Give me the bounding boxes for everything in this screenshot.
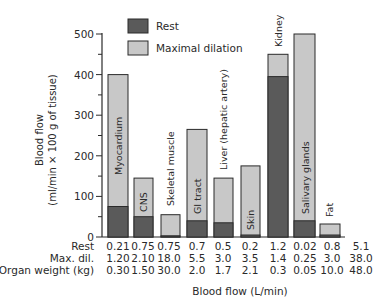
cell: 3.0 (317, 252, 347, 264)
cell: 3.5 (235, 252, 265, 264)
cell: 18.0 (154, 252, 184, 264)
label-fat: Fat (324, 203, 335, 217)
label-kidney: Kidney (273, 14, 284, 47)
cell: 48.0 (346, 264, 376, 276)
label-myocardium: Myocardium (113, 117, 124, 175)
cell: 0.3 (263, 264, 293, 276)
row-label-max-dil: Max. dil. (50, 252, 94, 264)
label-skeletal-muscle: Skeletal muscle (165, 131, 176, 206)
table-row-max-dil: Max. dil. 1.20 2.10 18.0 5.5 3.0 3.5 1.4… (0, 252, 391, 264)
bar-liver: Liver (hepatic artery) (214, 69, 233, 237)
label-liver: Liver (hepatic artery) (218, 69, 229, 170)
x-axis-title: Blood flow (L/min) (170, 285, 310, 297)
cell: 2.1 (235, 264, 265, 276)
legend-swatch-max (128, 41, 148, 55)
cell: 30.0 (154, 264, 184, 276)
cell: 0.25 (290, 252, 320, 264)
cell: 38.0 (346, 252, 376, 264)
y-tick-400: 400 (74, 69, 94, 81)
cell: 0.75 (154, 240, 184, 252)
bar-gi-tract: GI tract (187, 129, 207, 237)
label-cns: CNS (138, 192, 149, 212)
y-tick-500: 500 (74, 28, 94, 40)
y-tick-300: 300 (74, 109, 94, 121)
y-axis-title-line1: Blood flow (34, 114, 45, 166)
label-skin: Skin (245, 210, 256, 230)
cell: 0.05 (290, 264, 320, 276)
bar-myocardium: Myocardium (108, 75, 128, 237)
y-tick-100: 100 (74, 190, 94, 202)
bar-kidney: Kidney (268, 14, 288, 237)
y-axis-title-line2: (ml/min × 100 g of tissue) (47, 74, 58, 206)
cell: 1.4 (263, 252, 293, 264)
label-gi-tract: GI tract (192, 178, 203, 214)
bar-fat: Fat (320, 203, 340, 237)
legend-label-rest: Rest (156, 20, 179, 32)
row-label-organ-weight: Organ weight (kg) (0, 264, 94, 276)
bar-cns: CNS (134, 178, 153, 237)
cell: 3.0 (208, 252, 238, 264)
cell: 0.8 (317, 240, 347, 252)
bar-skin: Skin (241, 166, 260, 237)
cell: 0.5 (208, 240, 238, 252)
legend-label-max: Maximal dilation (156, 42, 243, 54)
bar-salivary-glands: Salivary glands (294, 34, 315, 237)
y-tick-200: 200 (74, 150, 94, 162)
cell: 0.2 (235, 240, 265, 252)
cell: 1.7 (208, 264, 238, 276)
cell: 0.02 (290, 240, 320, 252)
legend-swatch-rest (128, 19, 148, 33)
cell: 10.0 (317, 264, 347, 276)
label-salivary-glands: Salivary glands (300, 141, 311, 214)
bar-skeletal-muscle: Skeletal muscle (161, 131, 180, 237)
table-row-rest: Rest 0.21 0.75 0.75 0.7 0.5 0.2 1.2 0.02… (0, 240, 391, 252)
legend: Rest Maximal dilation (128, 19, 243, 55)
cell: 1.2 (263, 240, 293, 252)
cell: 5.1 (346, 240, 376, 252)
table-row-organ-weight: Organ weight (kg) 0.30 1.50 30.0 2.0 1.7… (0, 264, 391, 276)
row-label-rest: Rest (71, 240, 94, 252)
